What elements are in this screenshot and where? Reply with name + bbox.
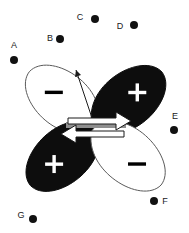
point-dot-c[interactable] bbox=[91, 15, 99, 23]
orbital-lobes bbox=[25, 65, 165, 191]
point-dot-d[interactable] bbox=[130, 21, 138, 29]
pointer-arrowhead bbox=[75, 70, 81, 77]
point-label-a: A bbox=[11, 40, 17, 50]
point-dot-b[interactable] bbox=[56, 35, 64, 43]
point-label-g: G bbox=[17, 210, 24, 220]
reference-point-a[interactable]: A bbox=[10, 40, 18, 64]
point-dot-a[interactable] bbox=[10, 56, 18, 64]
reference-point-e[interactable]: E bbox=[170, 111, 178, 134]
diagram-canvas: ABCDEFG bbox=[0, 0, 189, 233]
point-label-b: B bbox=[47, 33, 53, 43]
reference-point-d[interactable]: D bbox=[117, 21, 138, 31]
point-label-c: C bbox=[77, 12, 84, 22]
point-label-e: E bbox=[172, 111, 178, 121]
point-dot-e[interactable] bbox=[170, 126, 178, 134]
point-label-d: D bbox=[117, 21, 124, 31]
point-dot-g[interactable] bbox=[29, 215, 37, 223]
reference-point-c[interactable]: C bbox=[77, 12, 99, 23]
reference-point-g[interactable]: G bbox=[17, 210, 37, 223]
point-dot-f[interactable] bbox=[150, 197, 158, 205]
reference-point-b[interactable]: B bbox=[47, 33, 64, 43]
orbital-diagram-figure: ABCDEFG bbox=[0, 0, 189, 233]
point-label-f: F bbox=[162, 196, 168, 206]
reference-point-f[interactable]: F bbox=[150, 196, 168, 206]
